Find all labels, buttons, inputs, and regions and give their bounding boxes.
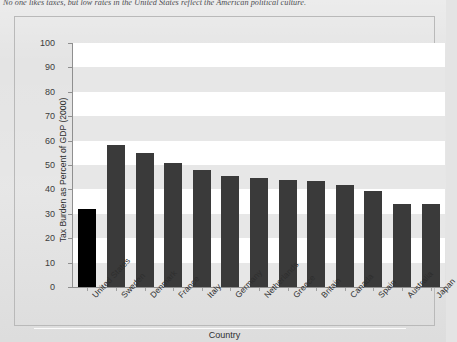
chart-panel: 1009080706050403020100 United StatesSwed… xyxy=(14,16,435,326)
y-tick-mark xyxy=(68,287,72,288)
y-tick-label: 70 xyxy=(25,112,55,121)
x-tick-mark xyxy=(116,288,117,291)
x-axis-divider xyxy=(34,328,406,329)
y-tick-label: 10 xyxy=(25,259,55,268)
x-tick-mark xyxy=(288,288,289,291)
figure-caption: No one likes taxes, but low rates in the… xyxy=(3,0,443,8)
y-tick-mark xyxy=(68,165,72,166)
y-tick-label: 20 xyxy=(25,234,55,243)
y-tick-label: 90 xyxy=(25,63,55,72)
y-tick-label: 100 xyxy=(25,39,55,48)
y-tick-mark xyxy=(68,141,72,142)
y-tick-label: 60 xyxy=(25,137,55,146)
x-tick-mark xyxy=(87,288,88,291)
y-axis-title: Tax Burden as Percent of GDP (2000) xyxy=(58,75,68,265)
y-tick-label: 0 xyxy=(25,283,55,292)
x-tick-mark xyxy=(145,288,146,291)
x-tick-mark xyxy=(373,288,374,291)
y-tick-mark xyxy=(68,263,72,264)
x-tick-mark xyxy=(402,288,403,291)
x-axis-title: Country xyxy=(14,330,435,340)
x-tick-mark xyxy=(345,288,346,291)
y-tick-label: 50 xyxy=(25,161,55,170)
bar xyxy=(221,176,239,287)
bar xyxy=(307,181,325,287)
x-tick-mark xyxy=(230,288,231,291)
y-tick-mark xyxy=(68,116,72,117)
y-tick-mark xyxy=(68,189,72,190)
bar xyxy=(193,170,211,287)
x-tick-mark xyxy=(431,288,432,291)
y-tick-label: 30 xyxy=(25,210,55,219)
x-tick-mark xyxy=(202,288,203,291)
y-tick-label: 40 xyxy=(25,185,55,194)
y-tick-mark xyxy=(68,67,72,68)
y-tick-mark xyxy=(68,43,72,44)
bar xyxy=(78,209,96,287)
y-axis-line xyxy=(72,43,73,288)
bar-series xyxy=(73,43,445,287)
x-tick-mark xyxy=(173,288,174,291)
bar xyxy=(164,163,182,287)
bar xyxy=(393,204,411,287)
bar xyxy=(336,185,354,287)
y-tick-mark xyxy=(68,238,72,239)
x-tick-mark xyxy=(316,288,317,291)
x-tick-mark xyxy=(259,288,260,291)
y-tick-label: 80 xyxy=(25,88,55,97)
bar xyxy=(136,153,154,287)
y-tick-mark xyxy=(68,214,72,215)
y-tick-mark xyxy=(68,92,72,93)
